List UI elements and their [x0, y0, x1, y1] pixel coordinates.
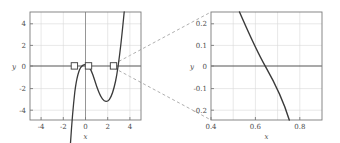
detail-xtick-2: 0.8: [294, 123, 305, 131]
detail-ytick-3: -0.1: [194, 85, 208, 93]
overview-plot: 4 2 0 -2 -4 -4 -2 0 2 4 y x: [0, 0, 170, 143]
overview-xlabel: x: [84, 133, 88, 141]
overview-ytick-2: 0: [22, 63, 26, 71]
overview-ytick-1: 2: [22, 42, 26, 50]
detail-xtick-0: 0.4: [205, 123, 217, 131]
overview-xtick-2: 0: [83, 123, 87, 131]
detail-ytick-1: 0.1: [196, 42, 207, 50]
overview-ytick-3: -2: [19, 85, 26, 93]
cubic-curve: [71, 12, 125, 143]
two-panel-root-figure: 4 2 0 -2 -4 -4 -2 0 2 4 y x: [0, 0, 340, 143]
overview-ytick-4: -4: [19, 107, 26, 115]
overview-ylabel: y: [11, 63, 17, 71]
detail-ylabel: y: [189, 63, 195, 71]
detail-xlabel: x: [265, 133, 269, 141]
overview-xtick-0: -4: [38, 123, 45, 131]
overview-xtick-3: 2: [105, 123, 109, 131]
overview-panel: 4 2 0 -2 -4 -4 -2 0 2 4 y x: [0, 0, 170, 143]
detail-panel: 0.2 0.1 0 -0.1 -0.2 0.4 0.6 0.8 y x: [170, 0, 340, 143]
overview-ytick-0: 4: [22, 20, 27, 28]
root-marker-left: [71, 63, 77, 69]
detail-ytick-4: -0.2: [194, 107, 208, 115]
detail-ytick-0: 0.2: [196, 20, 207, 28]
detail-plot: 0.2 0.1 0 -0.1 -0.2 0.4 0.6 0.8 y x: [170, 0, 340, 143]
root-marker-right: [110, 63, 116, 69]
overview-xtick-4: 4: [128, 123, 133, 131]
detail-xtick-1: 0.6: [250, 123, 262, 131]
detail-ytick-2: 0: [203, 63, 207, 71]
root-marker-middle: [85, 63, 91, 69]
overview-xtick-1: -2: [60, 123, 67, 131]
